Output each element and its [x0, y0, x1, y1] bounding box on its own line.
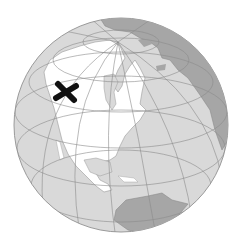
globe-svg: [0, 0, 243, 252]
globe-illustration: [0, 0, 243, 252]
